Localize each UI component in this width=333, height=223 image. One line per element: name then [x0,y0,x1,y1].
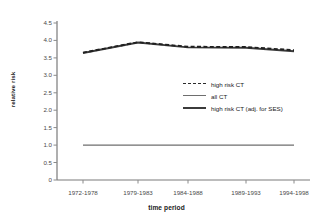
legend-item-high-risk-ct-adj[interactable]: high risk CT (adj. for SES) [183,102,331,114]
legend-label-high-risk-ct-adj: high risk CT (adj. for SES) [211,105,283,112]
legend-item-all-ct[interactable]: all CT [183,90,331,102]
legend-item-high-risk-ct[interactable]: high risk CT [183,78,331,90]
legend-swatch-dashed-icon [183,80,206,88]
chart-container: relative risk time period 4.5 4.0 3.5 3.… [0,0,333,223]
legend-swatch-solid-line-icon [183,104,206,112]
legend-swatch-thin-line-icon [183,92,206,100]
legend-label-high-risk-ct: high risk CT [211,81,244,88]
legend-label-all-ct: all CT [211,93,227,100]
chart-legend: high risk CT all CT high risk CT (adj. f… [183,78,331,114]
